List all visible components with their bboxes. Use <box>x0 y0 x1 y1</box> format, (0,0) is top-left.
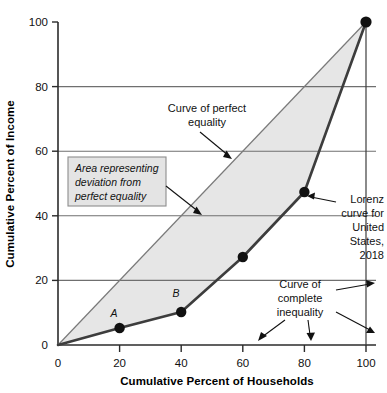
lorenz-line5: 2018 <box>360 249 384 261</box>
perfect-equality-leader-line <box>200 132 229 156</box>
lorenz-leader-line <box>311 197 336 202</box>
complete-inequality-leader-downright <box>336 312 370 330</box>
x-tick-marks <box>120 345 366 352</box>
annotation-complete-inequality: Curve of complete inequality <box>258 278 375 341</box>
annotation-perfect-equality: Curve of perfect equality <box>168 102 246 159</box>
y-tick-label-20: 20 <box>35 274 48 286</box>
y-tick-label-40: 40 <box>35 210 48 222</box>
y-axis-title: Cumulative Percent of Income <box>4 100 16 268</box>
complete-inequality-leader-left <box>262 320 285 337</box>
x-axis-title: Cumulative Percent of Households <box>120 375 314 387</box>
lorenz-line3: United <box>352 221 384 233</box>
y-tick-label-60: 60 <box>35 145 48 157</box>
deviation-box-line1: Area representing <box>74 162 159 174</box>
y-tick-label-80: 80 <box>35 81 48 93</box>
deviation-box-line2: deviation from <box>75 176 141 188</box>
perfect-equality-line2: equality <box>188 116 226 128</box>
x-tick-label-40: 40 <box>175 357 188 369</box>
x-tick-label-0: 0 <box>55 357 61 369</box>
x-tick-label-100: 100 <box>356 357 375 369</box>
complete-inequality-line2: complete <box>278 292 323 304</box>
annotation-lorenz: Lorenz curve for United States, 2018 <box>307 193 384 262</box>
y-tick-label-0: 0 <box>42 339 48 351</box>
x-tick-label-20: 20 <box>113 357 126 369</box>
point-label-a: A <box>109 307 117 319</box>
complete-inequality-arrowhead-downright <box>366 327 375 334</box>
x-tick-labels: 0 20 40 60 80 100 <box>55 357 376 369</box>
lorenz-line1: Lorenz <box>350 193 384 205</box>
complete-inequality-arrowhead-right <box>366 280 375 288</box>
lorenz-curve-figure: 100 80 60 40 20 0 0 20 40 60 80 100 Cumu… <box>0 0 387 393</box>
complete-inequality-arrowhead-left <box>258 332 267 341</box>
complete-inequality-line3: inequality <box>277 306 324 318</box>
deviation-box-leader-line <box>166 186 199 212</box>
data-point-b <box>176 307 186 317</box>
lorenz-line2: curve for <box>341 207 384 219</box>
lorenz-line4: States, <box>350 235 384 247</box>
complete-inequality-leader-down <box>308 320 310 335</box>
y-tick-marks <box>52 22 58 280</box>
y-tick-labels: 100 80 60 40 20 0 <box>29 16 48 351</box>
data-point-100 <box>360 16 371 27</box>
complete-inequality-line1: Curve of <box>279 278 322 290</box>
deviation-box-line3: perfect equality <box>74 190 147 202</box>
y-tick-label-100: 100 <box>29 16 48 28</box>
chart-svg: 100 80 60 40 20 0 0 20 40 60 80 100 Cumu… <box>0 0 387 393</box>
x-tick-label-80: 80 <box>298 357 311 369</box>
annotation-deviation-box: Area representing deviation from perfect… <box>68 157 202 215</box>
complete-inequality-arrowhead-down <box>307 333 316 342</box>
data-point-a <box>114 323 124 333</box>
perfect-equality-line1: Curve of perfect <box>168 102 246 114</box>
data-point-60 <box>238 252 248 262</box>
x-tick-label-60: 60 <box>236 357 249 369</box>
complete-inequality-leader-right <box>336 284 370 290</box>
point-label-b: B <box>172 287 179 299</box>
